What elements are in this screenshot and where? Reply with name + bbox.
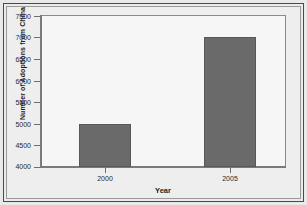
y-axis-tick-label: 4000 (0, 163, 31, 170)
y-axis-line (40, 15, 42, 167)
y-axis-tick-label: 7000 (0, 34, 31, 41)
y-axis-tick (34, 81, 40, 82)
bar-2005 (204, 37, 256, 167)
y-axis-title: Number of Adoptions from China (19, 0, 26, 134)
y-axis-tick-label: 4500 (0, 142, 31, 149)
y-axis-tick (34, 145, 40, 146)
x-axis-tick (105, 168, 106, 173)
y-axis-tick (34, 167, 40, 168)
bar-2000 (79, 124, 131, 167)
y-axis-tick-label: 6000 (0, 78, 31, 85)
x-axis-tick-label: 2000 (75, 175, 135, 183)
x-axis-title: Year (40, 186, 286, 195)
y-axis-tick (34, 37, 40, 38)
bar-chart-figure: 7500 7000 6500 6000 5500 5000 4500 4000 … (0, 0, 307, 205)
x-axis-tick (230, 168, 231, 173)
y-axis-tick-label: 6500 (0, 56, 31, 63)
y-axis-tick-label: 7500 (0, 13, 31, 20)
y-axis-tick (34, 59, 40, 60)
y-axis-tick (34, 16, 40, 17)
y-axis-tick (34, 102, 40, 103)
y-axis-tick-label: 5500 (0, 99, 31, 106)
x-axis-tick-label: 2005 (200, 175, 260, 183)
y-axis-tick-label: 5000 (0, 121, 31, 128)
y-axis-tick (34, 124, 40, 125)
